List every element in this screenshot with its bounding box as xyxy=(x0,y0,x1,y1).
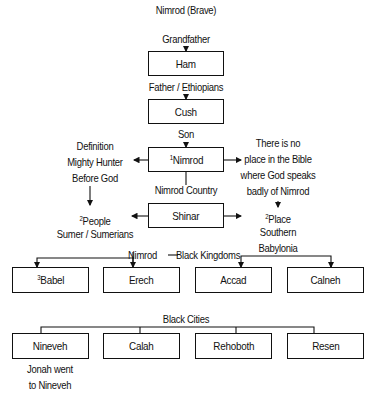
kingdom-calneh-text: Calneh xyxy=(311,274,341,286)
diagram-title: Nimrod (Brave) xyxy=(143,4,229,17)
kingdom-calneh-box: Calneh xyxy=(287,267,364,293)
country-label: Nimrod Country xyxy=(134,184,237,197)
city-rehoboth-text: Rehoboth xyxy=(213,340,254,352)
statement-line-3: where God speaks xyxy=(226,169,329,182)
jonah-note-line-2: to Nineveh xyxy=(16,379,85,392)
kingdom-accad-box: Accad xyxy=(195,267,272,293)
cities-label: Black Cities xyxy=(143,313,229,326)
kingdom-erech-box: Erech xyxy=(103,267,180,293)
city-rehoboth-box: Rehoboth xyxy=(195,333,272,359)
people-line-2: Sumer / Sumerians xyxy=(43,228,146,241)
nimrod-name: Nimrod xyxy=(172,154,202,166)
kingdom-accad-text: Accad xyxy=(220,274,246,286)
nimrod-box: 1Nimrod xyxy=(148,147,224,172)
son-label: Son xyxy=(160,128,212,141)
nimrod-text: 1Nimrod xyxy=(169,154,202,166)
cush-text: Cush xyxy=(175,106,197,118)
statement-line-2: place in the Bible xyxy=(226,153,329,166)
place-line-2: Southern xyxy=(235,226,321,239)
place-line-1: 2Place xyxy=(235,210,321,226)
city-resen-text: Resen xyxy=(312,340,339,352)
people-text: People xyxy=(83,215,111,227)
statement-line-4: badly of Nimrod xyxy=(226,185,329,198)
city-nineveh-box: Nineveh xyxy=(12,333,89,359)
jonah-note-line-1: Jonah went xyxy=(16,363,85,376)
cush-box: Cush xyxy=(148,99,224,124)
city-nineveh-text: Nineveh xyxy=(33,340,67,352)
shinar-text: Shinar xyxy=(172,210,199,222)
kingdoms-label: Black Kingdoms xyxy=(176,249,253,262)
definition-line-1: Definition xyxy=(52,140,138,153)
kingdom-erech-text: Erech xyxy=(129,274,154,286)
ham-text: Ham xyxy=(176,58,196,70)
kingdoms-label-nimrod: Nimrod xyxy=(128,249,162,262)
people-line-1: 2People xyxy=(52,212,138,228)
city-resen-box: Resen xyxy=(287,333,364,359)
kingdom-babel-box: 3Babel xyxy=(12,267,89,293)
statement-line-1: There is no xyxy=(226,137,329,150)
shinar-box: Shinar xyxy=(148,203,224,228)
ham-box: Ham xyxy=(148,51,224,76)
city-calah-text: Calah xyxy=(129,340,154,352)
father-label: Father / Ethiopians xyxy=(134,81,237,94)
kingdom-babel-text: 3Babel xyxy=(37,274,64,286)
definition-line-3: Before God xyxy=(52,172,138,185)
place-text: Place xyxy=(268,213,290,225)
kingdom-name: Babel xyxy=(40,274,64,286)
city-calah-box: Calah xyxy=(103,333,180,359)
grandfather-label: Grandfather xyxy=(143,33,229,46)
definition-line-2: Mighty Hunter xyxy=(52,156,138,169)
